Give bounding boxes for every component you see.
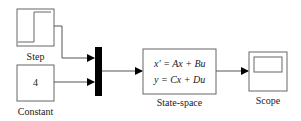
mux-block[interactable] [95, 47, 102, 96]
state-equation: x′ = Ax + Bu [153, 58, 206, 69]
step-label: Step [27, 51, 45, 62]
state-space-block[interactable]: x′ = Ax + Bu y = Cx + Du [143, 49, 216, 94]
constant-label: Constant [18, 106, 54, 117]
step-block[interactable] [17, 9, 54, 46]
state-space-label: State-space [157, 97, 203, 108]
output-equation: y = Cx + Du [153, 74, 205, 85]
step-to-mux-line [54, 26, 94, 58]
scope-screen-icon [254, 57, 282, 72]
constant-value: 4 [33, 77, 38, 88]
constant-block[interactable]: 4 [17, 65, 54, 101]
block-diagram: Step 4 Constant x′ = Ax + Bu y = Cx + Du… [0, 0, 301, 121]
scope-block[interactable] [249, 52, 287, 91]
scope-label: Scope [256, 95, 281, 106]
